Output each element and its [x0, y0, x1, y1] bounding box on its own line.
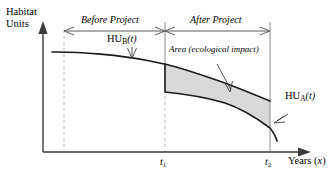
- curve-label-hu-before-arg: (t): [127, 33, 136, 44]
- figure-canvas: [0, 0, 334, 179]
- tick-label-t2-subscript: 2: [268, 161, 272, 169]
- tick-label-t1: t1: [160, 156, 166, 169]
- curve-label-hu-after: HUA(t): [285, 90, 315, 103]
- curve-label-hu-after-name: HU: [285, 90, 300, 101]
- curve-label-hu-after-arg: (t): [306, 90, 315, 101]
- x-axis-label-text: Years (: [288, 155, 318, 166]
- curve-label-hu-before-name: HU: [107, 33, 122, 44]
- area-annotation-label: Area (ecological impact): [169, 44, 259, 54]
- y-axis-label: Habitat Units: [6, 6, 37, 30]
- ecological-impact-area: [165, 64, 270, 128]
- y-axis-arrowhead: [38, 21, 47, 34]
- period-label-before-project: Before Project: [81, 14, 139, 25]
- period-label-after-project: After Project: [190, 14, 242, 25]
- y-axis-label-line1: Habitat: [6, 6, 37, 18]
- habitat-units-figure: Habitat Units Before Project After Proje…: [0, 0, 334, 179]
- tick-label-t2: t2: [265, 156, 271, 169]
- curve-label-hu-before: HUB(t): [107, 33, 137, 46]
- x-axis-label: Years (x): [288, 155, 326, 167]
- x-axis-label-close: ): [322, 155, 326, 166]
- y-axis-label-line2: Units: [6, 18, 37, 30]
- tick-label-t1-subscript: 1: [163, 161, 167, 169]
